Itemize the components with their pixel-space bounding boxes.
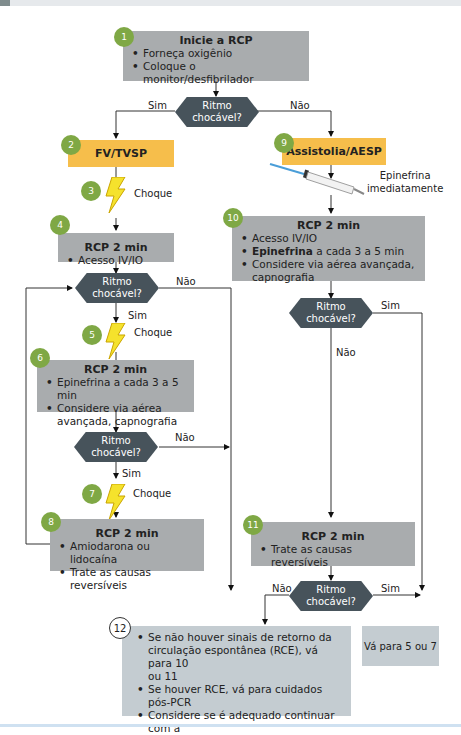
epi-line-2: imediatamente [367, 182, 443, 195]
step-badge-10: 10 [223, 208, 243, 228]
step-10-item: Considere via aérea avançada, [252, 258, 417, 271]
lightning-icon [103, 484, 127, 520]
step-10-item: Epinefrina a cada 3 a 5 min [252, 245, 417, 258]
step-10-item: Acesso IV/IO [252, 232, 417, 245]
step-1-title: Inicie a RCP [131, 34, 301, 47]
step-1-box: Inicie a RCP Forneça oxigênioColoque o m… [123, 31, 309, 81]
step-11-item: Trate as causas reversíveis [271, 543, 407, 569]
step-12-box: Se não houver sinais de retorno da circu… [122, 626, 351, 716]
step-4-item: Acesso IV/IO [78, 254, 166, 267]
step-1-item: Forneça oxigênio [143, 47, 301, 60]
step-12-item: Se houver RCE, vá para cuidados pós-PCR [148, 683, 343, 709]
step-11-box: RCP 2 min Trate as causas reversíveis [251, 522, 415, 566]
no-label: Não [176, 276, 196, 287]
shock-label: Choque [134, 188, 172, 199]
decision-text: chocável? [306, 313, 356, 325]
step-badge-12: 12 [109, 617, 131, 639]
step-8-item: Trate as causas reversíveis [70, 566, 196, 592]
step-10-item-rest: a cada 3 a 5 min [313, 245, 404, 257]
step-badge-4: 4 [50, 215, 70, 235]
decision-text: chocável? [192, 112, 242, 124]
yes-label: Sim [128, 310, 147, 321]
no-label: Não [336, 347, 356, 358]
step-10-title: RCP 2 min [240, 219, 417, 232]
decision-text: Ritmo [202, 100, 232, 112]
decision-text: Ritmo [316, 584, 346, 596]
decision-text: Ritmo [101, 435, 131, 447]
step-12-item-cont: circulação espontânea (RCE), vá para 10 [136, 644, 343, 670]
step-11-title: RCP 2 min [259, 530, 407, 543]
no-label: Não [290, 100, 310, 111]
decision-text: chocável? [306, 596, 356, 608]
yes-label: Sim [148, 100, 167, 111]
syringe-icon [268, 158, 368, 200]
epi-line-1: Epinefrina [367, 169, 443, 182]
yes-label: Sim [381, 300, 400, 311]
step-4-box: RCP 2 min Acesso IV/IO [58, 233, 174, 262]
step-badge-2: 2 [61, 135, 81, 155]
decision-2: Ritmochocável? [75, 273, 159, 303]
decision-1: Ritmochocável? [175, 97, 259, 127]
step-badge-3: 3 [81, 181, 101, 201]
decision-text: chocável? [92, 288, 142, 300]
step-badge-9: 9 [274, 133, 294, 153]
step-6-box: RCP 2 min Epinefrina a cada 3 a 5 minCon… [37, 360, 194, 412]
decision-text: Ritmo [316, 301, 346, 313]
bottom-rule [0, 724, 461, 727]
goto-box: Vá para 5 ou 7 [362, 626, 439, 666]
shock-label: Choque [134, 327, 172, 338]
step-4-title: RCP 2 min [66, 241, 166, 254]
step-6-title: RCP 2 min [45, 363, 186, 376]
step-badge-11: 11 [243, 515, 263, 535]
decision-3: Ritmochocável? [289, 298, 373, 328]
step-badge-5: 5 [82, 325, 102, 345]
epinephrine-label: Epinefrinaimediatamente [367, 169, 443, 195]
step-10-box: RCP 2 min Acesso IV/IO Epinefrina a cada… [232, 216, 425, 281]
step-8-title: RCP 2 min [58, 527, 196, 540]
step-badge-1: 1 [114, 27, 134, 47]
step-12-item-cont: ou 11 [136, 670, 343, 683]
decision-4: Ritmochocável? [74, 432, 158, 462]
step-6-item: Considere via aérea [57, 402, 186, 415]
step-badge-8: 8 [41, 512, 61, 532]
step-6-item: Epinefrina a cada 3 a 5 min [57, 376, 186, 402]
step-8-item: Amiodarona ou lidocaína [70, 540, 196, 566]
step-10-item-cont: capnografia [240, 271, 417, 284]
decision-5: Ritmochocável? [289, 581, 373, 611]
decision-text: chocável? [91, 447, 141, 459]
no-label: Não [272, 583, 292, 594]
shock-label: Choque [133, 488, 171, 499]
yes-label: Sim [381, 583, 400, 594]
step-badge-7: 7 [82, 484, 102, 504]
epinephrine-bold: Epinefrina [252, 245, 313, 257]
step-12-item: Se não houver sinais de retorno da [148, 631, 343, 644]
step-6-item-cont: avançada, capnografia [45, 415, 186, 428]
step-2-box: FV/TVSP [68, 140, 174, 167]
step-12-item: Considere se é adequado continuar com a [148, 709, 343, 735]
decision-text: Ritmo [102, 276, 132, 288]
yes-label: Sim [122, 468, 141, 479]
lightning-icon [103, 177, 127, 213]
lightning-icon [103, 323, 127, 359]
no-label: Não [175, 432, 195, 443]
step-8-box: RCP 2 min Amiodarona ou lidocaínaTrate a… [50, 519, 204, 571]
step-1-item: Coloque o monitor/desfibrilador [143, 60, 301, 86]
step-badge-6: 6 [30, 348, 50, 368]
